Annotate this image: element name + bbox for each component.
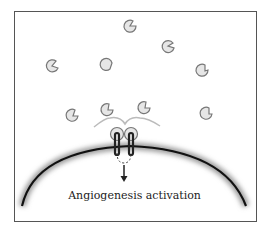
ligand-icon [162,41,174,53]
linker-chains [94,118,160,127]
free-ligands [46,20,212,121]
ligand-icon [66,109,78,121]
ligand-icon [100,58,112,70]
ligand-icon [46,60,58,72]
ligand-icon [200,107,212,119]
caption: Angiogenesis activation [0,189,269,202]
ligand-icon [101,104,113,116]
ligand-icon [196,64,208,76]
ligand-icon [124,20,136,32]
arrow-down-icon [121,165,128,182]
ligand-icon [138,102,150,114]
